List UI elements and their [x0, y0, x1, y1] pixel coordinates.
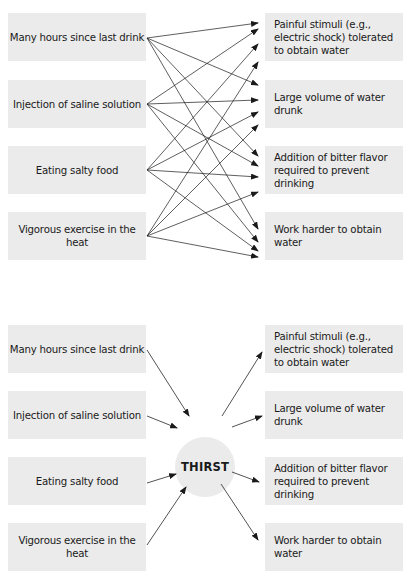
bottom-arrow-network	[0, 0, 410, 584]
